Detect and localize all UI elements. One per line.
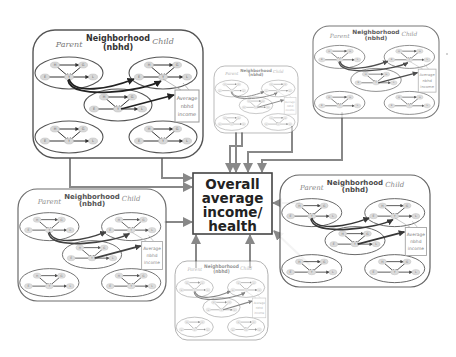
nbhd-bottom-center: Neighborhood(nbhd)ParentChildHGEYLHGEYLH… <box>175 261 268 340</box>
family-node-label: G <box>176 127 179 131</box>
family-node-label: H <box>103 95 106 99</box>
family-node-label: Y <box>130 284 132 288</box>
nbhd-top-center: Neighborhood(nbhd)ParentChildHGEYLHGEYLH… <box>214 66 298 133</box>
average-box-line: income <box>144 260 160 265</box>
family-node-label: H <box>79 246 81 250</box>
family-node-label: L <box>186 75 188 79</box>
family-node-label: L <box>151 228 153 232</box>
family-node-label: E <box>93 107 95 111</box>
stray-dot <box>446 53 448 55</box>
family-node-label: E <box>70 256 72 260</box>
multilevel-diagram: Neighborhood(nbhd)ParentChildHGEYLHGEYLH… <box>0 0 456 357</box>
family-node-label: H <box>328 96 330 99</box>
family-node-label: E <box>373 214 375 218</box>
nbhd-bottom-left: Neighborhood(nbhd)ParentChildHGEYLHGEYLH… <box>18 189 166 301</box>
family-node-label: L <box>243 90 244 92</box>
family-node-label: H <box>54 63 57 67</box>
family-node-label: E <box>290 270 292 274</box>
family-node-label: H <box>381 204 383 208</box>
child-label: Child <box>240 265 252 270</box>
family-node-label: E <box>44 139 46 143</box>
average-box-line: income <box>420 85 434 89</box>
average-nbhd-income-box: Averagenbhdincome <box>284 97 296 114</box>
parent-label: Parent <box>186 267 202 272</box>
family-node-label: E <box>27 284 29 288</box>
parent-label: Parent <box>299 183 324 192</box>
neighborhood-subtitle: (nbhd) <box>365 35 388 41</box>
average-box-line: nbhd <box>147 253 158 258</box>
family-node-label: E <box>109 284 111 288</box>
nbhd-top-left: Neighborhood(nbhd)ParentChildHGEYLHGEYLH… <box>33 30 203 158</box>
family-node-label: Y <box>48 228 50 232</box>
overall-average-box: Overall average income/ health <box>193 173 272 234</box>
family-node-label: H <box>341 232 343 236</box>
family-node-label: E <box>266 90 267 92</box>
family-node-label: Y <box>311 214 313 218</box>
family-node-label: L <box>151 284 153 288</box>
family-node-label: H <box>148 127 151 131</box>
family-node-label: L <box>92 139 94 143</box>
family-node-label: E <box>290 214 292 218</box>
family-node-label: H <box>298 204 300 208</box>
family-node-label: G <box>82 127 85 131</box>
average-nbhd-income-box: Averagenbhdincome <box>253 298 266 318</box>
family-node-label: H <box>54 127 57 131</box>
parent-label: Parent <box>224 71 238 76</box>
family-node-label: G <box>349 96 351 99</box>
family-node-label: H <box>148 63 151 67</box>
family-node-label: G <box>82 63 85 67</box>
family-node-label: L <box>69 228 71 232</box>
average-box-line: nbhd <box>256 306 263 310</box>
neighborhood-subtitle: (nbhd) <box>249 72 264 77</box>
average-nbhd-income-box: Averagenbhdincome <box>405 228 426 256</box>
family-node-label: E <box>219 90 220 92</box>
family-node-label: L <box>69 284 71 288</box>
nbhd-bottom-right: Neighborhood(nbhd)ParentChildHGEYLHGEYLH… <box>280 175 430 287</box>
family-node-label: H <box>398 50 400 53</box>
family-node-label: H <box>328 50 330 53</box>
family-node-label: G <box>385 73 387 76</box>
average-box-line: income <box>254 311 264 315</box>
family-node-label: G <box>419 50 421 53</box>
family-node-label: L <box>243 123 244 125</box>
average-box-line: Average <box>254 301 265 305</box>
family-node-label: G <box>131 95 134 99</box>
average-box-line: income <box>178 111 196 117</box>
family-node-label: E <box>219 123 220 125</box>
family-node-label: L <box>332 214 334 218</box>
family-node-label: G <box>349 50 351 53</box>
family-node-label: G <box>419 96 421 99</box>
family-node-label: L <box>332 270 334 274</box>
family-node-label: Y <box>394 270 396 274</box>
parent-label: Parent <box>329 33 350 39</box>
family-node-label: E <box>109 228 111 232</box>
average-box-line: income <box>286 109 295 112</box>
average-box-line: Average <box>407 232 425 237</box>
family-node-label: E <box>244 106 245 108</box>
family-node-label: L <box>415 214 417 218</box>
nbhd-top-right: Neighborhood(nbhd)ParentChildHGEYLHGEYLH… <box>313 26 439 118</box>
neighborhood-subtitle: (nbhd) <box>103 43 133 52</box>
family-node-label: E <box>44 75 46 79</box>
family-node-label: L <box>186 139 188 143</box>
family-node-label: H <box>381 260 383 264</box>
family-node-label: L <box>415 270 417 274</box>
family-node-label: Y <box>394 214 396 218</box>
child-label: Child <box>152 37 174 46</box>
family-node-label: E <box>27 228 29 232</box>
family-node-label: Y <box>91 256 93 260</box>
family-node-label: L <box>141 107 143 111</box>
neighborhood-subtitle: (nbhd) <box>79 200 105 208</box>
family-node-label: E <box>266 123 267 125</box>
family-node-label: H <box>398 96 400 99</box>
average-box-line: Average <box>285 101 296 104</box>
family-node-label: Y <box>48 284 50 288</box>
family-node-label: L <box>92 75 94 79</box>
average-box-line: nbhd <box>181 103 194 109</box>
parent-label: Parent <box>55 40 84 49</box>
parent-label: Parent <box>37 198 61 206</box>
child-label: Child <box>122 195 141 203</box>
family-node-label: H <box>118 274 120 278</box>
family-node-label: L <box>375 242 377 246</box>
family-node-label: E <box>138 139 140 143</box>
